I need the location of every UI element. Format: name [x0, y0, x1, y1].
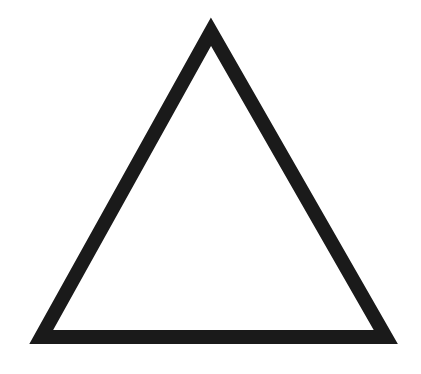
triangle-outline-icon — [0, 0, 421, 374]
diagram-canvas — [0, 0, 421, 374]
triangle-shape — [41, 32, 386, 337]
